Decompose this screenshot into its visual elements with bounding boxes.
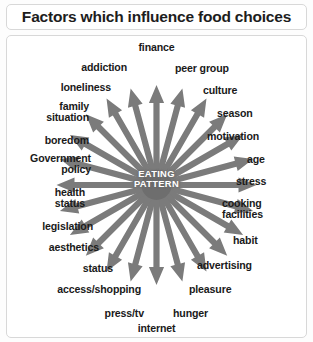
label-advertising: advertising [197, 260, 297, 271]
infographic-root: Factors which influence food choices [0, 0, 313, 342]
label-peer-group: peer group [175, 63, 275, 74]
label-internet: internet [7, 323, 306, 334]
label-motivation: motivation [207, 131, 306, 142]
label-press-tv: press/tv [59, 308, 144, 319]
label-hunger: hunger [173, 308, 263, 319]
label-boredom: boredom [11, 135, 89, 146]
label-culture: culture [203, 85, 295, 96]
label-loneliness: loneliness [19, 82, 111, 93]
label-pleasure: pleasure [189, 284, 284, 295]
label-cooking-facilities: cooking facilities [222, 198, 306, 220]
diagram-canvas: EATING PATTERN finance addiction lonelin… [7, 36, 306, 337]
label-family-line2: situation [46, 111, 89, 123]
page-title: Factors which influence food choices [22, 8, 291, 26]
label-family-situation: family situation [13, 101, 89, 123]
label-health-line2: status [55, 197, 85, 209]
label-health-status: health status [13, 187, 85, 209]
label-season: season [217, 108, 305, 119]
center-hub-disc [142, 170, 172, 200]
label-cooking-line2: facilities [222, 208, 263, 220]
label-addiction: addiction [37, 62, 127, 73]
title-panel: Factors which influence food choices [6, 4, 307, 30]
label-habit: habit [233, 235, 303, 246]
label-stress: stress [236, 176, 306, 187]
label-legislation: legislation [11, 221, 93, 232]
label-government-line2: policy [61, 163, 91, 175]
label-government-policy: Government policy [7, 153, 91, 175]
label-status: status [27, 263, 113, 274]
label-aesthetics: aesthetics [15, 242, 99, 253]
label-age: age [247, 154, 305, 165]
diagram-panel: EATING PATTERN finance addiction lonelin… [6, 35, 307, 338]
label-finance: finance [7, 42, 306, 53]
label-access-shopping: access/shopping [21, 284, 141, 295]
